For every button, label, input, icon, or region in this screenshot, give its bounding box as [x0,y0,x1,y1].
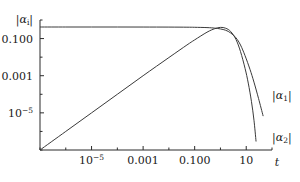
curve-labels: |α1||α2| [272,89,292,145]
x-tick-label: 10−5 [79,153,104,167]
series-line-1 [40,27,263,116]
y-tick-label: 0.100 [2,33,34,46]
x-tick-label: 10 [239,154,253,167]
series-label-1: |α1| [272,89,292,103]
x-axis-label: t [275,156,280,169]
series-line-2 [40,27,256,150]
chart-figure: 0.1000.00110−5 10−50.0010.10010 |α1||α2|… [0,0,300,182]
data-curves [40,27,263,150]
y-tick-label: 10−5 [8,106,33,120]
log-log-plot: 0.1000.00110−5 10−50.0010.10010 |α1||α2|… [0,0,300,182]
y-axis-tick-labels: 0.1000.00110−5 [2,33,34,120]
x-axis-ticks [40,146,272,150]
x-tick-label: 0.001 [127,154,159,167]
y-tick-label: 0.001 [2,70,34,83]
y-axis-label: |αi| [16,13,33,27]
y-axis-ticks [40,20,44,150]
x-axis-tick-labels: 10−50.0010.10010 [79,153,253,167]
x-tick-label: 0.100 [179,154,211,167]
series-label-2: |α2| [272,131,292,145]
